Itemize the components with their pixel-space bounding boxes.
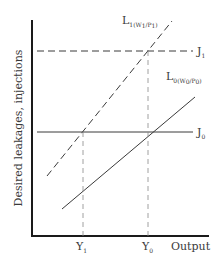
y0-tick-label: Y0 <box>141 240 153 254</box>
l1-line <box>47 21 172 176</box>
y-axis-label: Desired leakages, injections <box>12 49 25 206</box>
x-axis-label: Output <box>171 240 211 253</box>
leakages-injections-diagram: Desired leakages, injections Output Y1 Y… <box>0 0 221 258</box>
y1-tick-label: Y1 <box>75 240 87 254</box>
l0-label: L0(W0/P0) <box>166 70 202 85</box>
l1-label: L1(W1/P1) <box>122 14 158 29</box>
j1-label: J1 <box>196 45 205 59</box>
j0-label: J0 <box>196 126 205 140</box>
l0-line <box>62 97 195 209</box>
